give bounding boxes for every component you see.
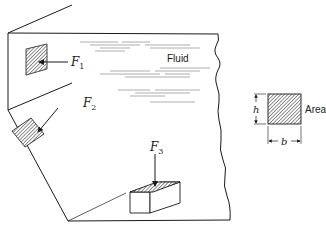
submerged-plate-1 [26, 44, 47, 75]
wall-fold-line [8, 83, 72, 110]
fluid-container-diagram: Fluid F1 F2 F3 h b Area [0, 0, 326, 227]
cut-away-edge [215, 34, 230, 220]
container-walls [8, 5, 230, 221]
free-surface-edge [8, 33, 218, 34]
bottom-fold-line [68, 193, 126, 221]
force-arrow-f2 [38, 108, 58, 132]
force-label-f2: F2 [82, 96, 96, 112]
height-label: h [253, 104, 259, 115]
bottom-edge [68, 220, 230, 221]
submerged-plate-2 [12, 118, 44, 147]
fluid-label: Fluid [167, 53, 189, 64]
fluid-dashes [80, 42, 210, 102]
block-front-face [130, 192, 150, 213]
area-legend: h b Area [253, 94, 326, 147]
legend-area-square [268, 94, 301, 124]
width-label: b [281, 136, 287, 147]
force-label-f3: F3 [149, 140, 163, 156]
area-label: Area [305, 104, 326, 115]
top-left-wall-edge [8, 5, 72, 33]
force-label-f1: F1 [70, 55, 84, 71]
